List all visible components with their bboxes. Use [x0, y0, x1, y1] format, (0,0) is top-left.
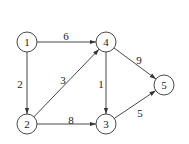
node-3: 3 [96, 114, 116, 134]
graph-diagram: 6238195 12345 [0, 0, 189, 144]
node-5: 5 [154, 75, 174, 95]
node-label: 4 [103, 36, 109, 48]
edge-weight-1-2: 2 [17, 78, 23, 90]
edge-weight-2-3: 8 [68, 114, 74, 126]
node-label: 5 [161, 79, 167, 91]
edge-weight-4-3: 1 [98, 78, 104, 90]
edge-weight-2-4: 3 [60, 74, 66, 86]
node-label: 2 [24, 118, 30, 130]
node-label: 3 [103, 118, 109, 130]
edge-weight-1-4: 6 [63, 30, 69, 42]
node-1: 1 [17, 32, 37, 52]
nodes: 12345 [17, 32, 174, 134]
edge-2-4 [34, 49, 99, 117]
edge-weight-4-5: 9 [136, 54, 142, 66]
node-4: 4 [96, 32, 116, 52]
edge-4-5 [114, 48, 156, 79]
node-2: 2 [17, 114, 37, 134]
edge-weight-3-5: 5 [137, 107, 143, 119]
node-label: 1 [24, 36, 30, 48]
edge-3-5 [114, 91, 155, 119]
